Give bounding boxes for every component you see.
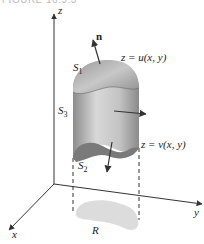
s2-label: S2 (78, 159, 88, 174)
s3-label: S3 (58, 104, 68, 119)
z-axis-label: z (58, 4, 62, 16)
region-r (76, 200, 138, 230)
upper-surface-equation: z = u(x, y) (121, 51, 166, 63)
s1-label: S1 (73, 61, 83, 76)
x-axis (9, 184, 54, 230)
x-axis-label: x (12, 228, 17, 240)
y-axis (54, 184, 202, 204)
region-label: R (92, 224, 99, 236)
normal-arrow-top (93, 40, 100, 64)
y-axis-label: y (194, 206, 199, 218)
lower-surface-equation: z = v(x, y) (141, 138, 186, 150)
normal-label: n (96, 30, 102, 42)
